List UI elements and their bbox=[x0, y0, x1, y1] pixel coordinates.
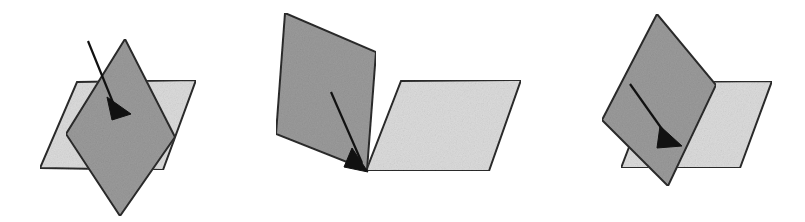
middle-panel bbox=[276, 13, 521, 172]
planes-diagram bbox=[0, 0, 805, 222]
middle-panel-light-plane bbox=[366, 80, 521, 171]
left-panel bbox=[40, 39, 196, 216]
right-panel bbox=[602, 14, 772, 186]
figure-canvas bbox=[0, 0, 805, 222]
middle-panel-dark-plane bbox=[276, 13, 376, 170]
left-panel-dark-plane bbox=[66, 39, 175, 216]
